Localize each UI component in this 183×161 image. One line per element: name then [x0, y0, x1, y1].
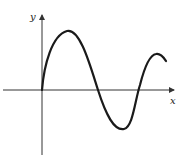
x-axis-label: x [170, 95, 176, 106]
y-axis-label: y [29, 11, 36, 22]
function-curve [42, 31, 166, 129]
function-graph: y x [0, 0, 183, 161]
